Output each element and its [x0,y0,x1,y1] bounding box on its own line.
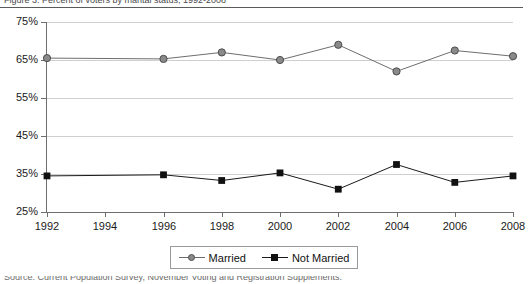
gridline [47,174,513,175]
data-point-marker [218,177,225,184]
y-axis-label: 75% [0,15,38,27]
y-axis-label: 65% [0,53,38,65]
y-axis-tick [41,136,47,137]
data-point-marker [509,53,516,60]
x-axis-label: 2008 [489,220,530,232]
gridline [47,22,513,23]
x-axis-label: 1994 [81,220,129,232]
x-axis-label: 2004 [373,220,421,232]
figure-caption-top-text: Figure 3. Percent of voters by marital s… [4,0,226,5]
data-point-marker [451,47,458,54]
gridline [47,136,513,137]
x-axis-tick [338,212,339,217]
x-axis-label: 2000 [256,220,304,232]
legend-marker-square-icon [262,252,288,263]
y-axis-tick [41,98,47,99]
data-point-marker [451,179,458,186]
x-axis-tick [280,212,281,217]
x-axis-label: 1998 [198,220,246,232]
x-axis-tick [397,212,398,217]
y-axis-tick [41,60,47,61]
gridline [47,98,513,99]
chart-legend: Married Not Married [170,246,358,269]
x-axis-tick [47,212,48,217]
series-line-not-married [47,165,513,190]
data-point-marker [393,161,400,168]
x-axis-tick [222,212,223,217]
y-axis-label: 25% [0,205,38,217]
x-axis-tick [455,212,456,217]
legend-label-not-married: Not Married [292,252,349,264]
x-axis-tick [105,212,106,217]
data-point-marker [160,55,167,62]
legend-label-married: Married [209,252,246,264]
x-axis-tick [164,212,165,217]
y-axis-tick [41,174,47,175]
x-axis-label: 1996 [140,220,188,232]
x-axis-label: 2006 [431,220,479,232]
figure-source-note-clipped: Source: Current Population Survey, Novem… [0,276,523,284]
y-axis-label: 35% [0,167,38,179]
data-point-marker [277,170,284,177]
y-axis-label: 55% [0,91,38,103]
data-point-marker [393,68,400,75]
y-axis-label: 45% [0,129,38,141]
data-point-marker [218,49,225,56]
data-point-marker [335,41,342,48]
legend-item-married: Married [179,252,246,264]
gridline [47,60,513,61]
top-divider-rule [0,7,523,8]
x-axis-label: 2002 [314,220,362,232]
legend-item-not-married: Not Married [262,252,349,264]
series-line-married [47,45,513,72]
y-axis-line [46,22,47,213]
y-axis-tick [41,22,47,23]
data-point-marker [335,186,342,193]
figure-source-note-text: Source: Current Population Survey, Novem… [4,276,342,282]
x-axis-label: 1992 [23,220,71,232]
legend-marker-circle-icon [179,252,205,263]
x-axis-tick [513,212,514,217]
